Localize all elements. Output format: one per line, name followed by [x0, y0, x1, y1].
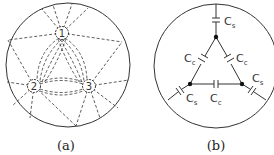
panel-b	[154, 4, 274, 128]
field-lines-outer	[7, 4, 129, 126]
boundary-circle-b	[154, 4, 274, 128]
node-top	[214, 35, 218, 39]
label-cc-bottom: Cc	[210, 92, 222, 107]
svg-text:3: 3	[86, 81, 92, 92]
node-3: 3	[83, 80, 96, 93]
field-lines-inner	[37, 38, 87, 95]
svg-text:1: 1	[59, 28, 65, 39]
label-cs-right: Cs	[252, 72, 264, 87]
label-cc-left: Cc	[184, 52, 196, 67]
svg-text:2: 2	[31, 81, 37, 92]
node-2: 2	[28, 80, 41, 93]
capacitor-cs-right	[248, 86, 256, 95]
boundary-circle-a	[6, 3, 130, 127]
label-cc-right: Cc	[236, 52, 248, 67]
capacitor-cc-right	[224, 54, 234, 62]
caption-a: (a)	[57, 138, 75, 153]
panel-a: 1 2 3	[6, 3, 130, 127]
figure: 1 2 3 (a)	[0, 0, 274, 155]
label-cs-top: Cs	[224, 15, 236, 30]
capacitor-cs-left	[176, 86, 184, 95]
caption-b: (b)	[207, 138, 225, 153]
node-left	[188, 82, 192, 86]
capacitor-cc-left	[198, 54, 208, 62]
node-right	[240, 82, 244, 86]
capacitor-cs-top	[212, 18, 220, 22]
capacitor-cc-bottom	[214, 80, 218, 88]
label-cs-left: Cs	[186, 92, 198, 107]
node-1: 1	[56, 27, 69, 40]
